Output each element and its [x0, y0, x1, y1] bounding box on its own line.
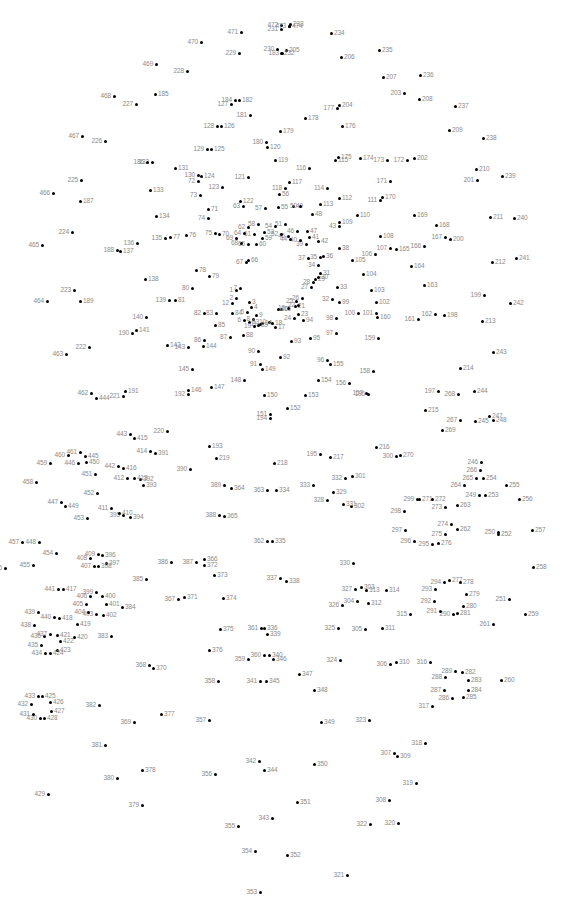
dot-marker	[116, 249, 119, 252]
dot-number-label: 111	[367, 196, 377, 203]
dot-marker	[275, 489, 278, 492]
dot-marker	[341, 604, 344, 607]
dot-marker	[104, 140, 107, 143]
dot-number-label: 433	[24, 692, 35, 699]
dot-number-label: 237	[458, 102, 469, 109]
dot-number-label: 274	[437, 520, 448, 527]
dot-number-label: 333	[299, 481, 310, 488]
dot-marker	[266, 540, 269, 543]
dot-number-label: 161	[404, 315, 415, 322]
dot-number-label: 429	[34, 790, 45, 797]
dot-marker	[346, 874, 349, 877]
dot-marker	[462, 696, 465, 699]
dot-number-label: 188	[103, 246, 114, 253]
dot-number-label: 181	[236, 111, 247, 118]
dot-number-label: 314	[389, 586, 400, 593]
dot-marker	[444, 236, 447, 239]
dot-number-label: 55	[281, 203, 288, 210]
dot-number-label: 441	[44, 585, 55, 592]
dot-marker	[195, 269, 198, 272]
dot-number-label: 323	[355, 716, 366, 723]
dot-marker	[218, 514, 221, 517]
dot-number-label: 84	[235, 309, 242, 316]
dot-marker	[77, 462, 80, 465]
dot-marker	[478, 494, 481, 497]
dot-marker	[423, 245, 426, 248]
dot-marker	[356, 214, 359, 217]
dot-number-label: 382	[85, 701, 96, 708]
dot-number-label: 282	[465, 668, 476, 675]
dot-number-label: 260	[504, 676, 515, 683]
dot-marker	[482, 477, 485, 480]
dot-number-label: 339	[270, 630, 281, 637]
dot-marker	[255, 314, 258, 317]
dot-number-label: 372	[207, 561, 218, 568]
dot-number-label: 120	[270, 143, 281, 150]
dot-number-label: 224	[58, 228, 69, 235]
dot-number-label: 304	[343, 597, 354, 604]
dot-marker	[274, 159, 277, 162]
dot-number-label: 442	[104, 462, 115, 469]
dot-number-label: 374	[226, 594, 237, 601]
dot-number-label: 417	[66, 585, 77, 592]
dot-number-label: 189	[83, 297, 94, 304]
dot-marker	[310, 286, 313, 289]
dot-marker	[434, 588, 437, 591]
dot-marker	[32, 713, 35, 716]
dot-marker	[335, 317, 338, 320]
dot-number-label: 448	[25, 538, 36, 545]
dot-marker	[313, 763, 316, 766]
dot-number-label: 435	[27, 641, 38, 648]
dot-marker	[293, 317, 296, 320]
dot-number-label: 95	[313, 334, 320, 341]
dot-marker	[266, 146, 269, 149]
dot-number-label: 413	[137, 474, 148, 481]
dot-marker	[207, 208, 210, 211]
dot-number-label: 327	[341, 585, 352, 592]
dot-marker	[389, 247, 392, 250]
dot-number-label: 291	[426, 607, 437, 614]
dot-marker	[336, 286, 339, 289]
dot-number-label: 100	[344, 309, 355, 316]
dot-number-label: 192	[174, 390, 185, 397]
dot-marker	[32, 564, 35, 567]
dot-number-label: 76	[189, 231, 196, 238]
dot-number-label: 193	[212, 442, 223, 449]
dot-marker	[38, 541, 41, 544]
dot-number-label: 19	[244, 322, 251, 329]
dot-marker	[369, 823, 372, 826]
dot-number-label: 141	[139, 326, 150, 333]
dot-number-label: 37	[298, 254, 305, 261]
dot-number-label: 330	[339, 559, 350, 566]
dot-number-label: 335	[275, 537, 286, 544]
dot-marker	[480, 461, 483, 464]
dot-marker	[118, 512, 121, 515]
dot-number-label: 391	[158, 449, 169, 456]
dot-number-label: 222	[75, 343, 86, 350]
dot-number-label: 381	[91, 741, 102, 748]
dot-marker	[374, 253, 377, 256]
dot-number-label: 316	[416, 658, 427, 665]
dot-number-label: 262	[460, 525, 471, 532]
dot-number-label: 306	[376, 660, 387, 667]
dot-marker	[443, 314, 446, 317]
dot-number-label: 172	[393, 156, 404, 163]
dot-number-label: 363	[253, 486, 264, 493]
dot-marker	[208, 719, 211, 722]
dot-marker	[341, 125, 344, 128]
dot-number-label: 329	[336, 488, 347, 495]
dot-number-label: 229	[225, 49, 236, 56]
dot-marker	[185, 234, 188, 237]
dot-marker	[247, 243, 250, 246]
dot-marker	[258, 760, 261, 763]
dot-marker	[79, 451, 82, 454]
dot-number-label: 257	[535, 526, 546, 533]
dot-marker	[444, 676, 447, 679]
dot-marker	[413, 540, 416, 543]
dot-number-label: 279	[469, 590, 480, 597]
dot-number-label: 116	[296, 164, 306, 171]
dot-marker	[336, 107, 339, 110]
dot-marker	[393, 752, 396, 755]
dot-number-label: 465	[28, 241, 39, 248]
dot-number-label: 221	[109, 392, 120, 399]
